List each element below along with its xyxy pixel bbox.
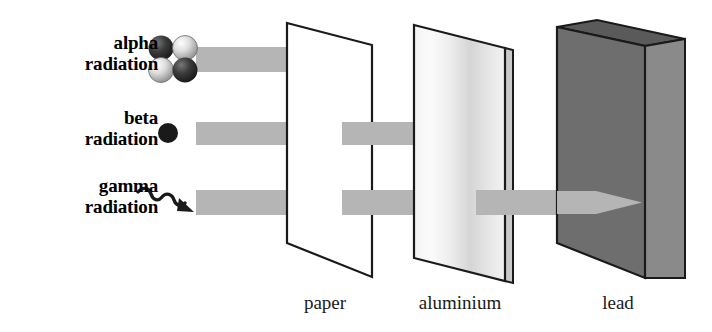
source-label-beta-line2: radiation [18,128,158,149]
barrier-label-paper: paper [277,292,373,314]
radiation-penetration-diagram: alpha radiation beta radiation gamma rad… [0,0,712,332]
beta-particle-dot-icon [158,123,178,143]
source-label-alpha: alpha radiation [18,32,158,75]
barrier-label-aluminium: aluminium [392,292,528,314]
barrier-lead [557,20,685,278]
source-label-gamma: gamma radiation [18,175,158,218]
source-label-alpha-line1: alpha [114,32,158,53]
barrier-aluminium [414,25,513,283]
source-label-gamma-line1: gamma [99,175,158,196]
source-label-alpha-line2: radiation [18,53,158,74]
source-label-beta-line1: beta [124,107,158,128]
barrier-label-lead: lead [570,292,666,314]
barrier-paper [287,23,372,277]
source-label-gamma-line2: radiation [18,196,158,217]
source-label-beta: beta radiation [18,107,158,150]
